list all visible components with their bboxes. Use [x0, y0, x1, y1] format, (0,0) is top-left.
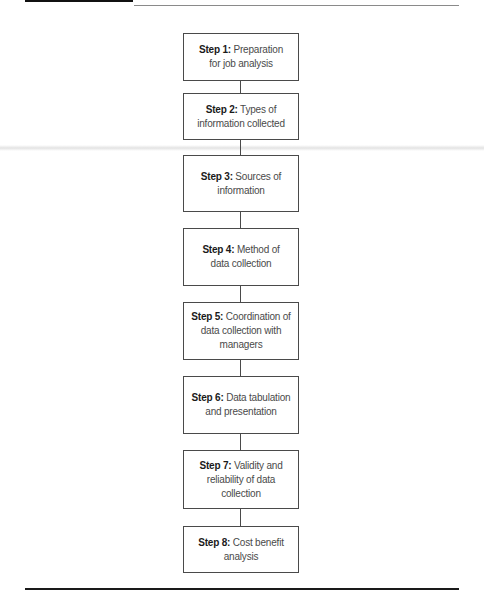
step-6-label: Step 6: — [192, 392, 224, 403]
step-7-box: Step 7: Validity and reliability of data… — [183, 450, 299, 509]
step-8-text: Cost benefit analysis — [224, 537, 284, 562]
step-5-box: Step 5: Coordination of data collection … — [183, 302, 299, 360]
connector-1-2 — [240, 81, 241, 93]
step-1-box: Step 1: Preparation for job analysis — [183, 33, 299, 81]
connector-2-3 — [240, 140, 241, 155]
connector-6-7 — [240, 434, 241, 450]
step-1-label: Step 1: — [199, 44, 231, 55]
connector-4-5 — [240, 286, 241, 302]
step-4-label: Step 4: — [202, 244, 234, 255]
step-2-label: Step 2: — [206, 104, 238, 115]
connector-5-6 — [240, 360, 241, 376]
header-black-bar — [25, 0, 133, 2]
step-3-box: Step 3: Sources of information — [183, 155, 299, 212]
step-4-box: Step 4: Method of data collection — [183, 228, 299, 286]
scan-artifact-band — [0, 145, 484, 151]
step-2-box: Step 2: Types of information collected — [183, 93, 299, 140]
step-8-box: Step 8: Cost benefit analysis — [183, 526, 299, 573]
step-8-label: Step 8: — [198, 537, 230, 548]
footer-rule — [25, 588, 459, 590]
connector-7-8 — [240, 509, 241, 526]
step-5-label: Step 5: — [191, 311, 223, 322]
connector-3-4 — [240, 212, 241, 228]
step-6-box: Step 6: Data tabulation and presentation — [183, 376, 299, 434]
step-7-label: Step 7: — [199, 460, 231, 471]
header-rule — [134, 5, 459, 6]
step-3-label: Step 3: — [201, 171, 233, 182]
